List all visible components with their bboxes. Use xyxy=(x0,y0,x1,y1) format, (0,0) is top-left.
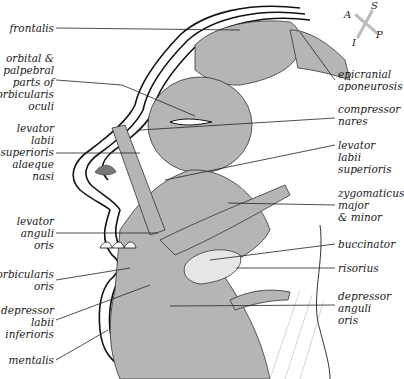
label-frontalis: frontalis xyxy=(9,22,54,34)
label-mentalis: mentalis xyxy=(8,354,54,366)
label-zygomaticus-major-minor: zygomaticus major & minor xyxy=(338,187,404,223)
risorius-muscle xyxy=(230,290,290,310)
nostril xyxy=(95,165,116,175)
label-levator-anguli-oris: levator anguli oris xyxy=(17,215,54,251)
orbicularis-oculi-muscle xyxy=(148,77,252,173)
label-depressor-anguli-oris: depressor anguli oris xyxy=(338,290,391,326)
label-compressor-nares: compressor nares xyxy=(338,103,400,127)
label-depressor-labii-inferioris: depressor labii inferioris xyxy=(1,304,54,340)
frontalis-muscle xyxy=(195,21,301,85)
label-epicranial-aponeurosis: epicranial aponeurosis xyxy=(338,68,403,92)
label-orbicularis-oculi: orbital & palpebral parts of orbicularis… xyxy=(0,52,54,112)
compass-inferior: I xyxy=(352,37,356,48)
label-levator-labii-superioris-alaeque-nasi: levator labii superioris alaeque nasi xyxy=(0,122,54,182)
muscles xyxy=(110,21,350,379)
teeth xyxy=(100,242,136,248)
label-risorius: risorius xyxy=(338,262,379,274)
orientation-compass xyxy=(356,11,377,37)
compass-anterior: A xyxy=(344,9,351,20)
label-levator-labii-superioris: levator labii superioris xyxy=(338,139,392,175)
compass-posterior: P xyxy=(376,29,383,40)
label-orbicularis-oris: orbicularis oris xyxy=(0,268,54,292)
label-buccinator: buccinator xyxy=(338,238,395,250)
compass-superior: S xyxy=(371,0,378,11)
neck-hatching xyxy=(270,290,324,379)
